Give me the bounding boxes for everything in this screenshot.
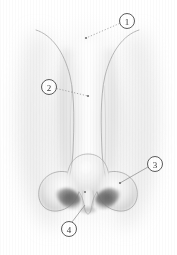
marker-3-label: 3 xyxy=(153,160,158,170)
marker-1[interactable]: 1 xyxy=(120,14,135,29)
nose-anatomy-figure: 1 2 3 4 xyxy=(0,0,177,255)
marker-2[interactable]: 2 xyxy=(42,80,57,95)
leader-endpoint-1 xyxy=(85,37,87,39)
columella xyxy=(80,190,96,213)
marker-3[interactable]: 3 xyxy=(148,157,163,172)
callout-dot-dorsum xyxy=(84,191,86,193)
leader-endpoint-2 xyxy=(87,95,89,97)
nasal-dorsum xyxy=(60,40,116,172)
marker-2-label: 2 xyxy=(47,83,52,93)
leader-endpoint-3 xyxy=(119,182,121,184)
marker-4-label: 4 xyxy=(67,225,72,235)
marker-1-label: 1 xyxy=(125,17,130,27)
nose-illustration: 1 2 3 4 xyxy=(0,0,177,255)
marker-4[interactable]: 4 xyxy=(62,222,77,237)
